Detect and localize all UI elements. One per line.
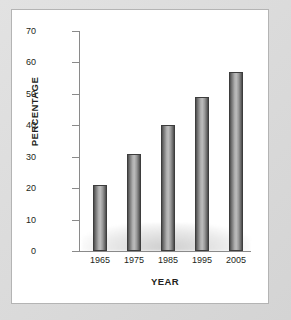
y-tick-label-70: 70 [0, 27, 36, 36]
y-tick-label-10: 10 [0, 216, 36, 225]
bar-1985 [161, 125, 175, 251]
chart-card: 70 60 50 40 30 20 10 0 1965 1975 [11, 9, 269, 304]
x-tick-label-2005: 2005 [214, 256, 258, 265]
y-tick-60 [72, 62, 79, 63]
y-tick-70 [72, 31, 79, 32]
y-tick-20 [72, 188, 79, 189]
y-tick-10 [72, 220, 79, 221]
bar-1975 [127, 154, 141, 251]
x-axis-line [79, 251, 251, 252]
y-tick-label-0: 0 [0, 247, 36, 256]
y-tick-0 [72, 251, 79, 252]
y-tick-40 [72, 125, 79, 126]
y-axis-title: PERCENTAGE [29, 62, 40, 162]
bar-2005 [229, 72, 243, 251]
chart-page: 70 60 50 40 30 20 10 0 1965 1975 [0, 0, 291, 320]
y-axis-line [79, 31, 80, 252]
bar-1995 [195, 97, 209, 251]
y-tick-50 [72, 94, 79, 95]
y-tick-30 [72, 157, 79, 158]
bar-1965 [93, 185, 107, 251]
bar-chart-plot: 70 60 50 40 30 20 10 0 1965 1975 [12, 10, 270, 305]
y-tick-label-20: 20 [0, 184, 36, 193]
x-axis-title: YEAR [79, 276, 251, 287]
